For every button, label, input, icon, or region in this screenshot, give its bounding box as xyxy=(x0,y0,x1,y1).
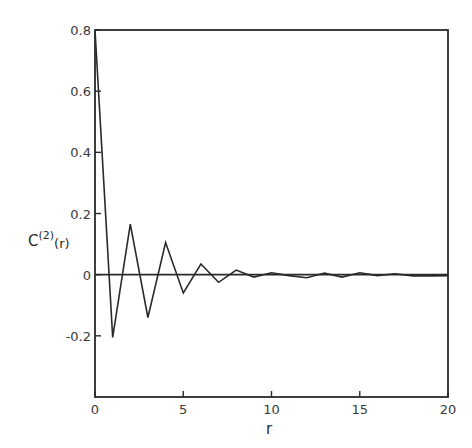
plot-frame xyxy=(95,30,448,397)
y-title-base: C xyxy=(28,232,38,250)
y-tick-label: 0 xyxy=(83,268,91,283)
y-title-superscript: (2) xyxy=(38,229,54,242)
x-axis-ticks: 05101520 xyxy=(91,391,456,417)
data-series-line xyxy=(95,30,448,337)
plot-border xyxy=(95,30,448,397)
y-tick-label: 0.6 xyxy=(70,84,91,99)
x-tick-label: 10 xyxy=(263,402,280,417)
chart: 0.80.60.40.20-0.2 05101520 r C(2)(r) xyxy=(0,0,472,448)
x-tick-label: 0 xyxy=(91,402,99,417)
y-tick-label: 0.4 xyxy=(70,145,91,160)
x-axis-title: r xyxy=(266,420,273,438)
x-tick-label: 5 xyxy=(179,402,187,417)
y-tick-label: 0.2 xyxy=(70,207,91,222)
x-tick-label: 15 xyxy=(351,402,368,417)
y-title-argument: (r) xyxy=(54,236,70,251)
y-tick-label: 0.8 xyxy=(70,23,91,38)
y-axis-title: C(2)(r) xyxy=(28,229,70,251)
x-tick-label: 20 xyxy=(440,402,457,417)
y-tick-label: -0.2 xyxy=(66,329,91,344)
